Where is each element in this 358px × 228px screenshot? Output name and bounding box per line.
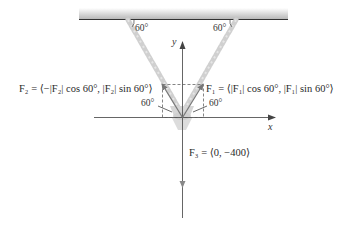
chain-left	[128, 20, 182, 114]
ceiling	[79, 8, 288, 20]
angle-label-ceiling-left: 60°	[135, 24, 148, 34]
f2-label: F₂ = ⟨−|F₂| cos 60°, |F₂| sin 60°⟩	[19, 84, 153, 95]
angle-label-f2: 60°	[141, 99, 154, 109]
angle-leader-right	[193, 106, 207, 112]
f3-label: F₃ = ⟨0, −400⟩	[189, 148, 250, 159]
force-diagram: 60° 60° y x F₂ = ⟨−|F₂| cos 60°, |F₂| si…	[0, 0, 358, 228]
y-axis-label: y	[172, 37, 176, 47]
f2-vector	[162, 84, 183, 118]
angle-leader-left	[158, 106, 172, 112]
angle-label-ceiling-right: 60°	[213, 24, 226, 34]
diagram-graphics	[0, 0, 358, 228]
hook-weight	[170, 106, 194, 130]
f3-arrow	[180, 181, 186, 188]
f1-vector	[183, 84, 204, 118]
x-axis-label: x	[268, 122, 272, 132]
f1-label: F₁ = ⟨|F₁| cos 60°, |F₁| sin 60°⟩	[206, 84, 334, 95]
angle-label-f1: 60°	[209, 99, 222, 109]
